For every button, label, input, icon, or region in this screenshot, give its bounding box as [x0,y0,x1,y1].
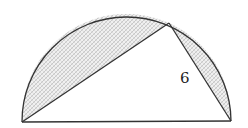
diameter [22,121,231,122]
semicircle-diagram: 6 [0,0,248,128]
side-length-label: 6 [180,69,190,87]
shaded-segment-left [22,14,169,122]
triangle-side-short [169,23,231,121]
